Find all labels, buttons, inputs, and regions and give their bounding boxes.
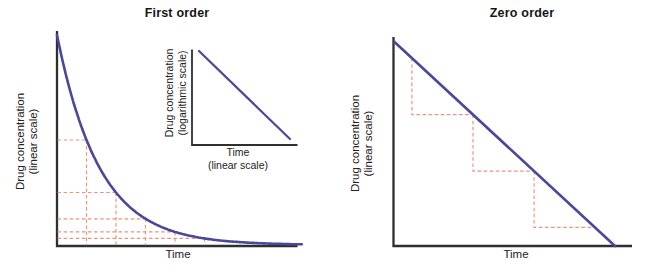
pharmacokinetics-figure: First order Zero order Drug concentratio…	[0, 0, 648, 274]
first-order-y-axis-label: Drug concentration (linear scale)	[14, 62, 41, 222]
zero-order-title: Zero order	[400, 6, 644, 20]
zero-order-axes	[392, 37, 632, 247]
y-label-line2: (linear scale)	[27, 62, 40, 222]
y-label-line2: (linear scale)	[362, 64, 375, 224]
inset-y-axis-label: Drug concentration (logarithmic scale)	[163, 33, 189, 153]
inset-log-line	[199, 51, 290, 139]
zero-order-plot	[392, 37, 632, 247]
y-label-line1: Drug concentration	[14, 62, 27, 222]
zero-order-y-axis-label: Drug concentration (linear scale)	[349, 64, 376, 224]
inset-x-label-line1: Time	[178, 146, 298, 159]
figure-graphics	[0, 0, 648, 274]
first-order-x-axis-label: Time	[118, 248, 238, 261]
y-label-line1: Drug concentration	[349, 64, 362, 224]
first-order-title: First order	[56, 6, 298, 20]
zero-order-decay-line	[395, 42, 616, 246]
inset-y-label-line1: Drug concentration	[163, 33, 176, 153]
zero-order-x-axis-label: Time	[456, 248, 576, 261]
inset-y-label-line2: (logarithmic scale)	[176, 33, 189, 153]
log-scale-inset	[191, 50, 297, 146]
inset-x-axis-label: Time (linear scale)	[178, 146, 298, 171]
inset-x-label-line2: (linear scale)	[178, 159, 298, 172]
